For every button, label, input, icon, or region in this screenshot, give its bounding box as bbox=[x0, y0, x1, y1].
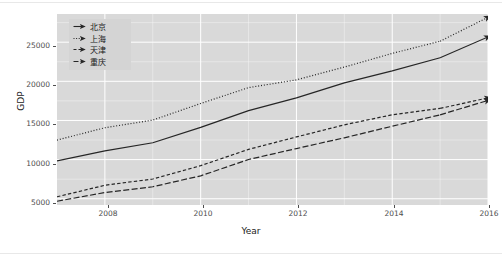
legend-item-chongqing[interactable]: 重庆 bbox=[72, 56, 128, 68]
x-tick-mark bbox=[394, 205, 395, 208]
y-tick-label-10000: 10000 bbox=[10, 159, 50, 168]
legend-label-beijing: 北京 bbox=[90, 21, 106, 32]
line-key-dashed-icon bbox=[72, 44, 88, 55]
bottom-divider bbox=[0, 253, 502, 254]
x-tick-label-2010: 2010 bbox=[183, 209, 223, 218]
legend-item-tianjin[interactable]: 天津 bbox=[72, 44, 128, 56]
y-axis-title: GDP bbox=[16, 71, 26, 131]
legend-label-shanghai: 上海 bbox=[90, 33, 106, 44]
line-key-solid-icon bbox=[72, 21, 88, 32]
x-tick-label-2014: 2014 bbox=[374, 209, 414, 218]
y-tick-mark bbox=[53, 85, 56, 86]
legend-item-beijing[interactable]: 北京 bbox=[72, 21, 128, 33]
legend[interactable]: 北京 上海 天津 重庆 bbox=[69, 19, 131, 70]
x-tick-mark bbox=[298, 205, 299, 208]
line-key-dotted-icon bbox=[72, 33, 88, 44]
legend-label-tianjin: 天津 bbox=[90, 44, 106, 55]
legend-item-shanghai[interactable]: 上海 bbox=[72, 33, 128, 45]
line-key-longdash-icon bbox=[72, 56, 88, 67]
x-tick-mark bbox=[489, 205, 490, 208]
x-tick-label-2016: 2016 bbox=[469, 209, 502, 218]
y-tick-mark bbox=[53, 124, 56, 125]
x-tick-mark bbox=[203, 205, 204, 208]
top-divider bbox=[0, 2, 502, 3]
chart-page: 25000 20000 15000 10000 5000 2008 2010 2… bbox=[0, 0, 502, 256]
x-tick-mark bbox=[108, 205, 109, 208]
legend-label-chongqing: 重庆 bbox=[90, 56, 106, 67]
y-tick-mark bbox=[53, 164, 56, 165]
y-tick-mark bbox=[53, 46, 56, 47]
y-tick-mark bbox=[53, 203, 56, 204]
y-tick-label-25000: 25000 bbox=[10, 41, 50, 50]
y-tick-label-5000: 5000 bbox=[10, 198, 50, 207]
x-axis-title: Year bbox=[0, 226, 502, 236]
x-tick-label-2008: 2008 bbox=[88, 209, 128, 218]
x-tick-label-2012: 2012 bbox=[278, 209, 318, 218]
